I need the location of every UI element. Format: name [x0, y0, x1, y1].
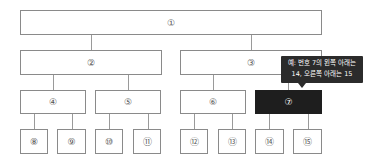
node-9-label: ⑨ — [67, 137, 75, 147]
node-4-label: ④ — [49, 97, 57, 107]
node-1: ① — [20, 10, 322, 35]
edge-1-3 — [251, 35, 252, 50]
edge-6-13 — [232, 114, 233, 129]
node-5: ⑤ — [95, 90, 161, 114]
tooltip-line-2: 14, 오른쪽 아래는 15 — [281, 69, 363, 80]
node-9: ⑨ — [57, 129, 86, 154]
node-2: ② — [20, 50, 162, 75]
node-14: ⑭ — [255, 129, 284, 154]
node-5-label: ⑤ — [124, 97, 132, 107]
node-14-label: ⑭ — [265, 135, 274, 148]
node-2-label: ② — [87, 58, 95, 68]
node-12: ⑫ — [180, 129, 208, 154]
edge-3-6 — [213, 75, 214, 90]
node-13-label: ⑬ — [228, 135, 237, 148]
edge-6-12 — [194, 114, 195, 129]
node-4: ④ — [20, 90, 86, 114]
node-10: ⑩ — [95, 129, 123, 154]
tooltip-line-1: 예: 번호 7의 왼쪽 아래는 — [281, 58, 363, 69]
node-12-label: ⑫ — [190, 135, 199, 148]
node-7-highlighted: ⑦ — [255, 90, 322, 114]
node-7-label: ⑦ — [284, 97, 292, 107]
node-8-label: ⑧ — [30, 137, 38, 147]
edge-4-9 — [72, 114, 73, 129]
edge-4-8 — [34, 114, 35, 129]
example-tooltip: 예: 번호 7의 왼쪽 아래는 14, 오른쪽 아래는 15 — [281, 56, 363, 83]
node-1-label: ① — [167, 18, 175, 28]
edge-7-15 — [308, 114, 309, 129]
node-8: ⑧ — [20, 129, 48, 154]
node-3-label: ③ — [247, 58, 255, 68]
node-6: ⑥ — [180, 90, 246, 114]
node-15: ⑮ — [293, 129, 322, 154]
edge-1-2 — [91, 35, 92, 50]
node-11: ⑪ — [133, 129, 161, 154]
node-11-label: ⑪ — [143, 135, 152, 148]
edge-5-10 — [109, 114, 110, 129]
edge-7-14 — [269, 114, 270, 129]
tooltip-pointer-icon — [298, 83, 306, 88]
node-13: ⑬ — [218, 129, 246, 154]
node-10-label: ⑩ — [105, 137, 113, 147]
edge-2-5 — [128, 75, 129, 90]
edge-5-11 — [148, 114, 149, 129]
node-15-label: ⑮ — [303, 135, 312, 148]
edge-2-4 — [53, 75, 54, 90]
node-6-label: ⑥ — [209, 97, 217, 107]
